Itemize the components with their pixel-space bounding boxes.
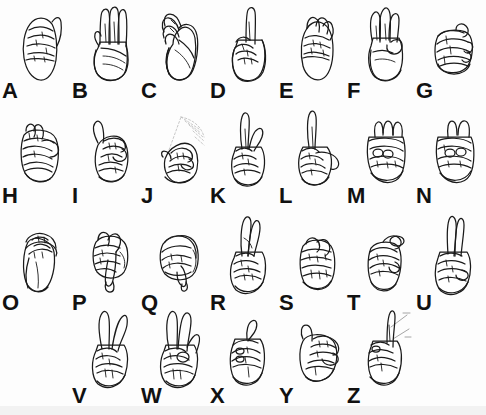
asl-alphabet-chart: A B — [0, 0, 486, 415]
asl-hand-h-icon — [12, 107, 69, 189]
asl-hand-v-icon — [82, 307, 139, 389]
letter-label: D — [210, 80, 226, 102]
sign-cell-d[interactable]: D — [208, 0, 277, 110]
letter-label: C — [141, 80, 157, 102]
letter-label: V — [72, 385, 87, 407]
sign-cell-k[interactable]: K — [208, 105, 277, 215]
sign-cell-l[interactable]: L — [277, 105, 346, 215]
asl-hand-c-icon — [151, 2, 208, 84]
letter-label: K — [210, 185, 226, 207]
letter-label: Y — [279, 385, 294, 407]
letter-label: Z — [347, 385, 360, 407]
letter-label: E — [279, 80, 294, 102]
letter-label: B — [72, 80, 88, 102]
letter-label: I — [72, 185, 78, 207]
asl-hand-w-icon — [151, 307, 208, 389]
letter-label: L — [279, 185, 292, 207]
asl-hand-y-icon — [289, 307, 346, 389]
asl-hand-z-icon — [357, 307, 414, 389]
asl-hand-a-icon — [12, 2, 69, 84]
letter-label: N — [416, 185, 432, 207]
sign-cell-g[interactable]: G — [414, 0, 483, 110]
asl-hand-t-icon — [357, 214, 414, 296]
asl-hand-e-icon — [289, 2, 346, 84]
sign-cell-w[interactable]: W — [139, 305, 208, 415]
sign-cell-b[interactable]: B — [70, 0, 139, 110]
asl-hand-f-icon — [357, 2, 414, 84]
sign-cell-f[interactable]: F — [345, 0, 414, 110]
sign-cell-m[interactable]: M — [345, 105, 414, 215]
letter-label: X — [210, 385, 225, 407]
asl-hand-m-icon — [357, 107, 414, 189]
asl-hand-n-icon — [426, 107, 483, 189]
asl-hand-l-icon — [289, 107, 346, 189]
alphabet-row-4: V W — [0, 305, 486, 415]
asl-hand-g-icon — [426, 2, 483, 84]
asl-hand-k-icon — [220, 107, 277, 189]
asl-hand-u-icon — [426, 214, 483, 296]
asl-hand-o-icon — [12, 214, 69, 296]
sign-cell-a[interactable]: A — [0, 0, 69, 110]
sign-cell-v[interactable]: V — [70, 305, 139, 415]
asl-hand-r-icon — [220, 214, 277, 296]
letter-label: J — [141, 185, 153, 207]
asl-hand-q-icon — [151, 214, 208, 296]
letter-label: W — [141, 385, 162, 407]
sign-cell-e[interactable]: E — [277, 0, 346, 110]
letter-label: A — [2, 80, 18, 102]
asl-hand-x-icon — [220, 307, 277, 389]
asl-hand-s-icon — [289, 214, 346, 296]
sign-cell-x[interactable]: X — [208, 305, 277, 415]
asl-hand-d-icon — [220, 2, 277, 84]
asl-hand-j-icon — [151, 107, 208, 189]
sign-cell-y[interactable]: Y — [277, 305, 346, 415]
sign-cell-n[interactable]: N — [414, 105, 483, 215]
letter-label: H — [2, 185, 18, 207]
sign-cell-h[interactable]: H — [0, 105, 69, 215]
sign-cell-c[interactable]: C — [139, 0, 208, 110]
letter-label: M — [347, 185, 365, 207]
alphabet-row-1: A B — [0, 0, 486, 110]
asl-hand-p-icon — [82, 214, 139, 296]
bottom-band — [0, 406, 486, 415]
letter-label: F — [347, 80, 360, 102]
asl-hand-i-icon — [82, 107, 139, 189]
sign-cell-z[interactable]: Z — [345, 305, 414, 415]
alphabet-row-2: H I — [0, 105, 486, 215]
asl-hand-b-icon — [82, 2, 139, 84]
sign-cell-j[interactable]: J — [139, 105, 208, 215]
sign-cell-i[interactable]: I — [70, 105, 139, 215]
letter-label: G — [416, 80, 433, 102]
